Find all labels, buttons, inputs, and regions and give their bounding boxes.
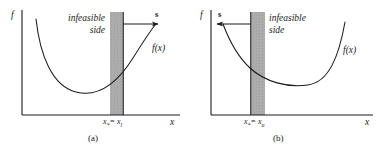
infeasible-side-text-a: infeasible side	[45, 13, 105, 36]
direction-vector-label-a: s	[155, 10, 158, 19]
x-star-tick-label-a: x*= xl	[103, 118, 122, 128]
tick-a-sub2: l	[121, 122, 123, 128]
infeasible-band-a	[110, 12, 124, 115]
tick-b-sub2: u	[262, 122, 265, 128]
panel-a: f x infeasible side s f(x) x*= xl (a)	[0, 0, 193, 152]
x-axis-label-b: x	[365, 118, 369, 128]
y-axis-label-a: f	[11, 11, 14, 21]
figure-container: f x infeasible side s f(x) x*= xl (a)	[0, 0, 386, 152]
infeasible-line-2-b: side	[269, 25, 284, 35]
caption-b: (b)	[273, 134, 284, 143]
panel-b: f x infeasible side s f(x) x*= xu (b)	[193, 0, 386, 152]
tick-b-eq: = x	[251, 117, 262, 126]
direction-vector-label-b: s	[218, 10, 221, 19]
x-axis-label-a: x	[170, 118, 174, 128]
infeasible-line-1-a: infeasible	[68, 13, 105, 23]
infeasible-line-2-a: side	[90, 25, 105, 35]
curve-label-a: f(x)	[152, 44, 165, 54]
curve-label-b: f(x)	[343, 46, 356, 56]
caption-a: (a)	[88, 134, 98, 143]
tick-a-eq: = x	[110, 117, 121, 126]
x-star-tick-label-b: x*= xu	[244, 118, 265, 128]
infeasible-band-b	[251, 12, 265, 115]
infeasible-side-text-b: infeasible side	[269, 13, 329, 36]
infeasible-line-1-b: infeasible	[269, 13, 306, 23]
y-axis-label-b: f	[200, 11, 203, 21]
